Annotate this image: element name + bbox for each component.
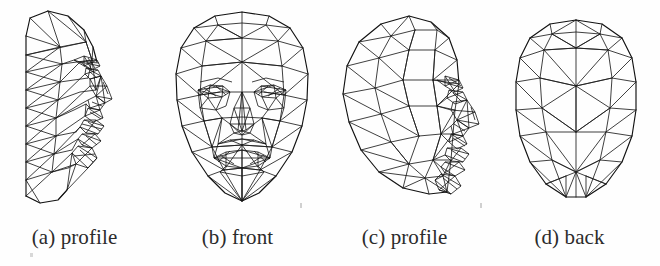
mesh-svg-profile-a bbox=[0, 0, 165, 218]
caption-back-d: (d) back bbox=[487, 222, 652, 252]
caption-front-b: (b) front bbox=[155, 222, 320, 252]
mesh-panel-profile-c bbox=[325, 0, 490, 218]
mesh-panel-back-d bbox=[490, 0, 655, 218]
caption-profile-c: (c) profile bbox=[322, 222, 487, 252]
mesh-svg-front-b bbox=[160, 0, 325, 218]
mesh-svg-back-d bbox=[490, 0, 660, 218]
scan-speck-left bbox=[300, 203, 302, 208]
caption-profile-a: (a) profile bbox=[0, 222, 157, 252]
mesh-svg-profile-c bbox=[325, 0, 490, 218]
mesh-face-detail-profile-a bbox=[52, 56, 112, 200]
caption-row: (a) profile (b) front (c) profile (d) ba… bbox=[0, 222, 660, 262]
wireframe-head-figure: (a) profile (b) front (c) profile (d) ba… bbox=[0, 0, 660, 266]
scan-speck-right bbox=[480, 203, 482, 208]
mesh-wireframe-profile-a bbox=[26, 11, 97, 203]
mesh-wireframe-back-d bbox=[516, 20, 636, 197]
mesh-panel-profile-a bbox=[0, 0, 165, 218]
mesh-panel-front-b bbox=[160, 0, 325, 218]
